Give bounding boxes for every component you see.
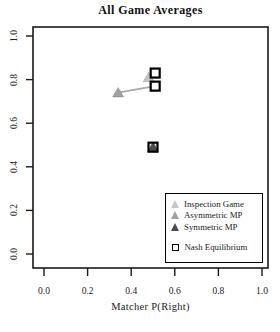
y-tick-label: 0.0 [9,248,19,260]
chart-figure: All Game Averages 0.00.20.40.60.81.0 0.0… [0,0,280,332]
legend-item-label: Asymmetric MP [184,210,242,220]
x-tick-label: 0.4 [125,286,137,296]
x-tick-label: 0.2 [82,286,94,296]
legend-item: Asymmetric MP [171,210,262,222]
triangle-icon [171,200,179,208]
triangle-icon [171,211,179,219]
x-tick-label: 0.8 [212,286,224,296]
x-axis-label: Matcher P(Right) [33,301,268,312]
open-square-icon [172,244,179,251]
legend-item: Inspection Game [171,198,262,210]
y-tick-label: 0.8 [9,74,19,86]
y-tick-label: 1.0 [9,30,19,42]
legend-item: Symmetric MP [171,221,262,233]
nash-square-marker [151,69,160,78]
legend-item-label: Inspection Game [184,199,244,209]
legend: Inspection GameAsymmetric MPSymmetric MP… [165,193,263,263]
connector-line [118,87,151,93]
y-tick-label: 0.6 [9,117,19,129]
y-tick-label: 0.2 [9,204,19,216]
legend-item-label: Nash Equilibrium [185,242,248,252]
x-tick-label: 1.0 [256,286,268,296]
nash-square-marker [151,82,160,91]
x-tick-label: 0.0 [38,286,50,296]
plot-area [0,0,280,332]
legend-item-nash: Nash Equilibrium [171,242,262,254]
y-tick-label: 0.4 [9,161,19,173]
x-tick-label: 0.6 [169,286,181,296]
triangle-icon [171,223,179,231]
legend-item-label: Symmetric MP [184,222,238,232]
